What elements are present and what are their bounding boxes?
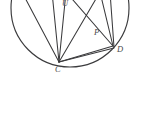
point-label-U: U: [62, 0, 68, 8]
segment-top-to-d: [66, 0, 113, 46]
point-label-D: D: [117, 45, 123, 54]
segment-c-to-top-left: [52, 0, 59, 62]
geometry-figure: U P D C: [0, 0, 141, 119]
figure-ink: [11, 0, 129, 67]
point-label-C: C: [55, 65, 61, 74]
point-label-P: P: [94, 28, 99, 37]
figure-canvas: [0, 0, 141, 119]
